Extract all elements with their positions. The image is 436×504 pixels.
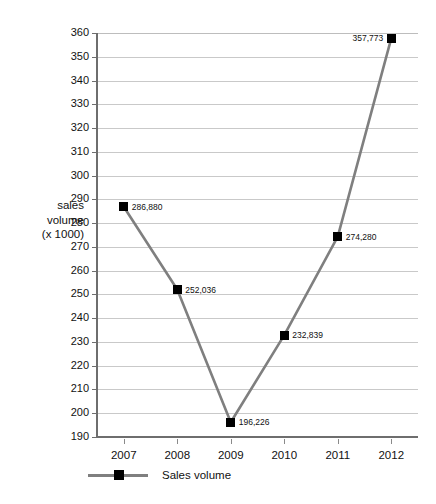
- x-axis-tick-mark: [177, 439, 178, 444]
- data-point-marker: [333, 232, 342, 241]
- y-axis-tick-label: 330: [55, 98, 89, 109]
- y-axis-tick-label: 200: [55, 407, 89, 418]
- line-chart: sales volume (x 1000) 190200210220230240…: [0, 0, 436, 504]
- y-axis-tick-label: 340: [55, 75, 89, 86]
- y-axis-tick-label: 280: [55, 217, 89, 228]
- data-point-marker: [173, 285, 182, 294]
- y-axis-tick-label: 240: [55, 312, 89, 323]
- y-axis-tick-label: 220: [55, 360, 89, 371]
- x-axis-tick-mark: [284, 439, 285, 444]
- legend: Sales volume: [88, 469, 231, 481]
- y-axis-tick-label: 230: [55, 336, 89, 347]
- y-axis-tick-label: 210: [55, 383, 89, 394]
- x-axis-tick-label: 2007: [94, 449, 154, 461]
- legend-line-swatch: [88, 474, 148, 477]
- x-axis-tick-label: 2009: [201, 449, 261, 461]
- data-point-marker: [119, 202, 128, 211]
- x-axis-tick-mark: [391, 439, 392, 444]
- y-axis-tick-label: 310: [55, 146, 89, 157]
- plot-area: 286,880252,036196,226232,839274,280357,7…: [97, 33, 418, 437]
- y-axis-tick-label: 350: [55, 51, 89, 62]
- y-axis-tick-label: 290: [55, 193, 89, 204]
- legend-label-sales-volume: Sales volume: [162, 469, 231, 481]
- data-point-label: 357,773: [325, 34, 383, 43]
- y-axis-tick-label: 300: [55, 170, 89, 181]
- data-point-label: 274,280: [346, 233, 377, 242]
- legend-square-marker-icon: [114, 470, 124, 480]
- y-axis-tick-label: 260: [55, 265, 89, 276]
- x-axis-tick-label: 2011: [308, 449, 368, 461]
- x-axis-tick-mark: [338, 439, 339, 444]
- y-axis-tick-label: 190: [55, 431, 89, 442]
- y-axis-tick-label: 320: [55, 122, 89, 133]
- x-axis-tick-mark: [231, 439, 232, 444]
- data-point-label: 286,880: [132, 203, 163, 212]
- x-axis-tick-label: 2008: [147, 449, 207, 461]
- data-point-label: 232,839: [292, 331, 323, 340]
- y-axis-tick-label: 250: [55, 288, 89, 299]
- y-axis-tick-label: 270: [55, 241, 89, 252]
- data-point-label: 196,226: [239, 418, 270, 427]
- x-axis-tick-label: 2010: [254, 449, 314, 461]
- x-axis-tick-mark: [124, 439, 125, 444]
- data-point-marker: [387, 34, 396, 43]
- x-axis-tick-label: 2012: [361, 449, 421, 461]
- y-axis-tick-label: 360: [55, 27, 89, 38]
- data-point-marker: [226, 418, 235, 427]
- data-point-marker: [280, 331, 289, 340]
- data-point-label: 252,036: [185, 286, 216, 295]
